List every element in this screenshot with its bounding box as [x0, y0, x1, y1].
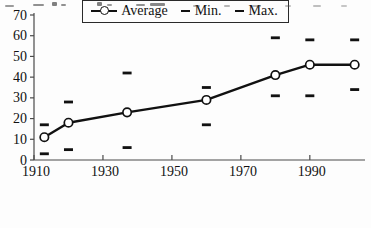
x-tick-label: 1930 [91, 164, 119, 179]
average-point-marker [306, 61, 314, 69]
y-tick-label: 40 [13, 70, 27, 85]
min-dash-marker [40, 152, 49, 155]
max-dash-marker [40, 123, 49, 126]
chart-plot-area: 01020304050607019101930195019701990 [0, 0, 371, 185]
average-point-marker [350, 61, 358, 69]
y-tick-label: 30 [13, 90, 27, 105]
y-tick-label: 50 [13, 49, 27, 64]
average-line [44, 65, 354, 137]
max-dash-symbol-icon [235, 10, 244, 13]
max-dash-marker [305, 38, 314, 41]
max-dash-marker [64, 101, 73, 104]
average-line-symbol-icon [91, 10, 117, 12]
min-dash-marker [123, 146, 132, 149]
max-dash-marker [350, 38, 359, 41]
y-tick-label: 60 [13, 28, 27, 43]
average-point-marker [123, 108, 131, 116]
average-point-marker [271, 71, 279, 79]
x-tick-label: 1950 [160, 164, 188, 179]
min-dash-marker [202, 123, 211, 126]
min-dash-symbol-icon [181, 10, 190, 13]
min-dash-marker [271, 94, 280, 97]
x-tick-label: 1990 [298, 164, 326, 179]
figure-scanned-line-chart: 01020304050607019101930195019701990 Aver… [0, 0, 371, 228]
cropped-caption-fragments [0, 0, 371, 9]
y-tick-label: 10 [13, 132, 27, 147]
min-dash-marker [64, 148, 73, 151]
min-dash-marker [305, 94, 314, 97]
max-dash-marker [271, 36, 280, 39]
min-dash-marker [350, 88, 359, 91]
average-point-marker [202, 96, 210, 104]
average-point-marker [64, 119, 72, 127]
y-tick-label: 20 [13, 111, 27, 126]
x-tick-label: 1910 [22, 164, 50, 179]
max-dash-marker [202, 86, 211, 89]
x-tick-label: 1970 [229, 164, 257, 179]
average-point-marker [40, 133, 48, 141]
max-dash-marker [123, 72, 132, 75]
